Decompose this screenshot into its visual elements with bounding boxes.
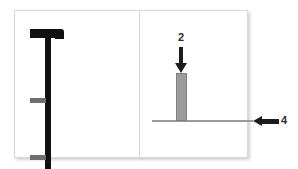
- post-tick-upper: [30, 98, 46, 103]
- callout-label-4: 4: [281, 114, 287, 126]
- post-head-bevel-shape: [55, 36, 64, 39]
- down-arrow-icon: [175, 47, 188, 73]
- left-arrow-shaft: [261, 119, 279, 124]
- technical-figure: 2 4: [0, 0, 298, 169]
- left-panel: [14, 10, 140, 158]
- callout-label-2: 2: [170, 31, 192, 43]
- right-panel: [139, 10, 248, 158]
- value-bar: [176, 73, 187, 121]
- post-tick-lower: [30, 155, 46, 160]
- left-arrow-icon: [253, 116, 279, 127]
- down-arrow-head: [175, 63, 187, 73]
- baseline-rule: [152, 120, 253, 122]
